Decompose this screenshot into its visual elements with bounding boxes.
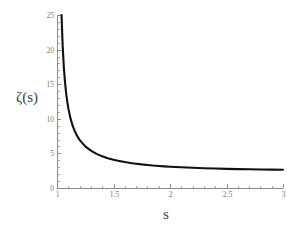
x-tick-label: 1.5: [110, 190, 120, 199]
x-tick-label: 2.5: [223, 190, 233, 199]
zeta-curve: [62, 15, 283, 170]
y-tick-label: 5: [50, 149, 54, 158]
y-tick-label: 20: [47, 46, 55, 55]
y-tick-labels: 0510152025: [47, 11, 55, 193]
plot-canvas: 11.522.53 0510152025 ζ(s) s: [0, 0, 287, 230]
x-tick-label: 2: [169, 190, 173, 199]
y-tick-label: 0: [50, 184, 54, 193]
y-axis-title: ζ(s): [16, 89, 38, 106]
x-tick-label: 1: [56, 190, 60, 199]
y-tick-label: 15: [47, 80, 55, 89]
y-tick-label: 25: [47, 11, 55, 20]
x-tick-labels: 11.522.53: [56, 190, 286, 199]
x-tick-label: 3: [282, 190, 286, 199]
major-ticks-group: [57, 16, 284, 189]
x-axis-title: s: [163, 206, 169, 222]
zeta-function-plot: 11.522.53 0510152025 ζ(s) s: [0, 0, 287, 230]
y-tick-label: 10: [47, 115, 55, 124]
minor-ticks-group: [57, 16, 273, 189]
